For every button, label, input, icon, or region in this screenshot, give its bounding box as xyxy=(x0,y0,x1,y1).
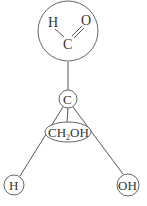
bond-to-ch2oh xyxy=(67,108,68,122)
oh-substituent-label: OH xyxy=(118,178,137,193)
h-substituent-label: H xyxy=(9,178,18,193)
aldehyde-c-label: C xyxy=(63,37,72,52)
molecule-diagram: H C O C CH2OH H OH xyxy=(0,0,147,206)
aldehyde-o-label: O xyxy=(81,13,91,28)
aldehyde-h-label: H xyxy=(48,15,58,30)
bond-to-h xyxy=(20,107,63,176)
aldehyde-group-circle xyxy=(38,1,98,61)
chiral-carbon-label: C xyxy=(63,92,72,107)
